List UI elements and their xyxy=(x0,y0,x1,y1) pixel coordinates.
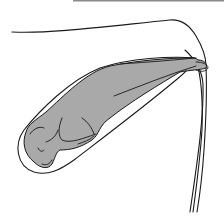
birth-canal-line-middle xyxy=(193,60,202,212)
calf-uterus-diagram xyxy=(0,0,224,222)
fetus xyxy=(24,58,206,168)
